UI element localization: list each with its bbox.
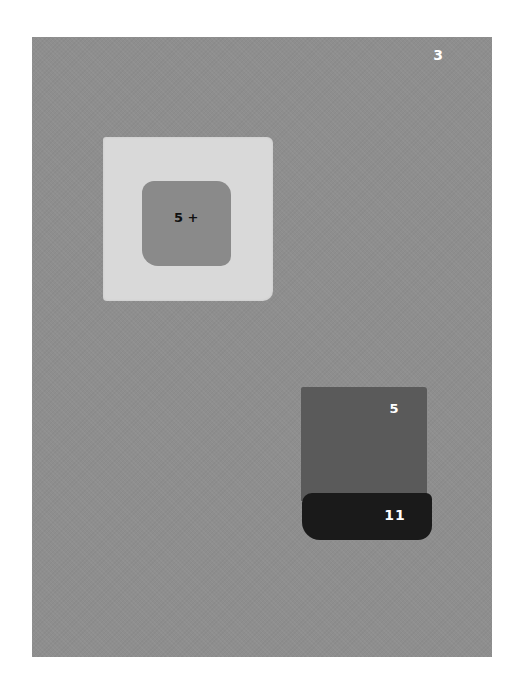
dark-square-label: 5 [386, 401, 402, 416]
dark-grey-square [301, 387, 427, 501]
grey-canvas [32, 37, 492, 657]
black-strip [302, 493, 432, 540]
inner-square-label: 5 + [174, 210, 214, 225]
page-number: 3 [428, 47, 448, 63]
black-strip-label: 11 [380, 507, 410, 523]
